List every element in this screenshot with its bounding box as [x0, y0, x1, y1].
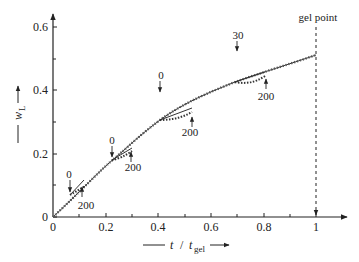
svg-text:t: t: [189, 238, 193, 252]
y-tick-0.6: 0.6: [33, 20, 48, 34]
svg-text:/: /: [180, 238, 184, 252]
x-tick-0.8: 0.8: [257, 220, 272, 234]
x-tick-0.2: 0.2: [99, 220, 114, 234]
svg-text:L: L: [17, 106, 27, 112]
annotation-30: 30: [233, 29, 245, 41]
branch-segments: [70, 72, 265, 195]
annotation-200-b: 200: [125, 161, 142, 173]
y-tick-0.4: 0.4: [33, 83, 48, 97]
annotation-0-b: 0: [109, 134, 115, 146]
x-tick-1: 1: [313, 220, 319, 234]
y-tick-0: 0: [42, 210, 48, 224]
annotation-200-d: 200: [258, 90, 275, 102]
svg-text:gel: gel: [194, 244, 205, 254]
chart: 0 0.2 0.4 0.6 0 0.2 0.4 0.6 0.8 1 t / t …: [0, 0, 359, 262]
svg-text:t: t: [170, 238, 174, 252]
annotation-200-a: 200: [78, 199, 95, 211]
annotation-200-c: 200: [182, 126, 199, 138]
gel-point-marker: gel point: [299, 11, 338, 215]
y-tick-0.2: 0.2: [33, 147, 48, 161]
x-tick-labels: 0 0.2 0.4 0.6 0.8 1: [50, 220, 319, 234]
axes: [53, 14, 347, 217]
annotation-0-a: 0: [66, 168, 72, 180]
x-tick-0.6: 0.6: [204, 220, 219, 234]
y-tick-labels: 0 0.2 0.4 0.6: [33, 20, 48, 224]
y-axis-label: w L: [11, 86, 27, 143]
annotation-0-c: 0: [158, 69, 164, 81]
x-tick-0: 0: [50, 220, 56, 234]
gel-point-label: gel point: [299, 11, 338, 23]
x-tick-0.4: 0.4: [151, 220, 166, 234]
svg-text:w: w: [11, 112, 25, 120]
x-axis-label: t / t gel: [143, 238, 229, 254]
